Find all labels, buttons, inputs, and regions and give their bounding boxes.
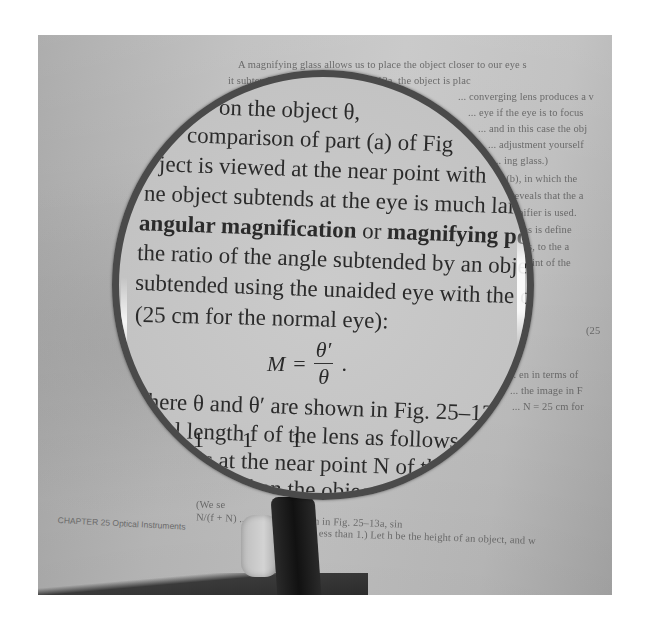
page-line: ... eye if the eye is to focus [468,107,584,118]
page-line: ... and in this case the obj [478,123,587,134]
formula-equals: = [293,351,305,377]
connector: or [356,218,388,244]
lens-glare [517,227,525,347]
formula-fraction: θ′ θ [314,339,334,388]
equation-number: (25 [586,325,600,336]
magnified-line: on the object θ, [219,95,361,126]
formula-denominator: θ [318,364,329,388]
fraction-ticks: 1 1 1 [193,427,302,453]
lens-glare [121,277,127,367]
formula-lhs: M [267,351,285,377]
page-line: ... N = 25 cm for [512,401,584,412]
term-magnifying-power: magnifying po [387,219,529,249]
magnified-line: comparison of part (a) of Fig [187,122,454,157]
magnifying-lens: on the object θ, comparison of part (a) … [112,70,534,500]
tick: 1 [291,427,302,453]
magnifier-handle [271,497,322,595]
page-line: ... the image in F [510,385,583,396]
formula-period: . [341,351,347,377]
photograph: A magnifying glass allows us to place th… [38,35,612,595]
page-line: ... ing glass.) [493,155,548,166]
term-angular-magnification: angular magnification [139,210,357,243]
page-line: ... adjustment yourself [488,139,584,150]
page-line: ...(b), in which the [498,173,577,184]
page-line: ... converging lens produces a v [458,91,594,102]
page-line: ... en in terms of [508,369,578,380]
page-line: A magnifying glass allows us to place th… [238,59,527,70]
tick: 1 [242,427,253,453]
tick: 1 [193,427,204,453]
formula-numerator: θ′ [314,339,334,364]
page-line: (We se [196,499,225,510]
magnified-line: (25 cm for the normal eye): [135,302,389,335]
magnification-formula: M = θ′ θ . [267,339,347,388]
